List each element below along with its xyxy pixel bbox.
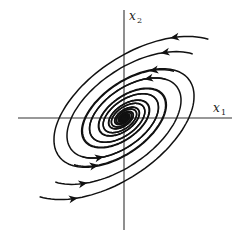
x1-axis-label: x1: [213, 101, 226, 117]
x2-axis-label: x2: [129, 9, 142, 25]
svg-text:x: x: [129, 9, 136, 23]
svg-text:2: 2: [137, 16, 142, 25]
phase-portrait-diagram: x2 x1: [0, 0, 246, 239]
svg-text:x: x: [213, 101, 220, 115]
svg-text:1: 1: [221, 108, 226, 117]
